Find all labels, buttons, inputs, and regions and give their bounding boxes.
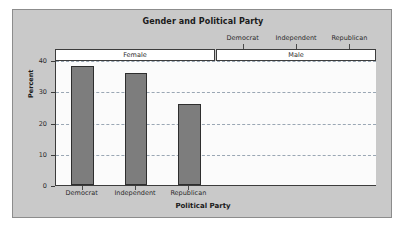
bar: [125, 73, 147, 186]
bar: [178, 104, 200, 185]
gridline: [56, 155, 376, 156]
panel-header-male: Male: [216, 49, 376, 61]
panel-header-female: Female: [55, 49, 215, 61]
top-axis-labels: Republican: [13, 34, 393, 45]
y-axis-tick-label: 40: [25, 57, 47, 65]
y-axis-tick-label: 30: [25, 88, 47, 96]
bar: [71, 66, 93, 185]
plot-area: [55, 61, 376, 186]
y-axis-tick-label: 20: [25, 120, 47, 128]
x-axis-title: Political Party: [13, 202, 393, 210]
bottom-axis-label: Republican: [170, 189, 206, 197]
graph-frame: Gender and Political Party Percent Polit…: [12, 9, 392, 218]
y-axis-tick: [51, 61, 55, 62]
y-axis-tick: [51, 92, 55, 93]
bottom-axis-labels: Republican: [13, 189, 393, 200]
top-axis-label: Republican: [331, 34, 367, 42]
top-axis-tick: [349, 44, 350, 49]
y-axis-tick-label: 10: [25, 151, 47, 159]
gridline: [56, 61, 376, 62]
y-axis-tick: [51, 186, 55, 187]
panel-header-label: Male: [217, 50, 375, 60]
gridline: [56, 124, 376, 125]
chart-title: Gender and Political Party: [13, 17, 393, 26]
panel-header-label: Female: [56, 50, 214, 60]
y-axis-tick: [51, 124, 55, 125]
y-axis-tick: [51, 155, 55, 156]
gridline: [56, 92, 376, 93]
chart-page: Gender and Political Party Percent Polit…: [0, 0, 404, 227]
bottom-axis-tick: [188, 186, 189, 190]
